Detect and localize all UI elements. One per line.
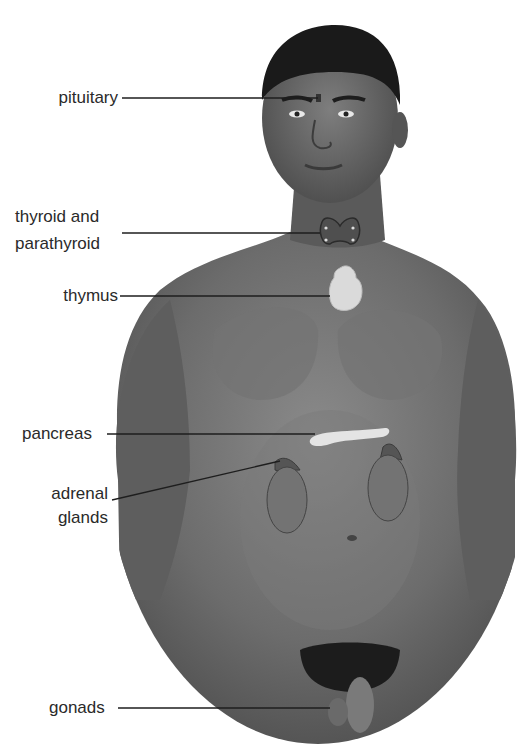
torso [116, 232, 516, 749]
head [262, 25, 408, 203]
gonads-label: gonads [49, 698, 105, 718]
pancreas-label: pancreas [22, 424, 92, 444]
pituitary-label: pituitary [30, 88, 118, 108]
adrenal-label-line2: glands [20, 508, 108, 528]
endocrine-diagram [0, 0, 530, 749]
thyroid-label-line2: parathyroid [15, 234, 100, 254]
thymus-label: thymus [30, 286, 118, 306]
adrenal-label-line1: adrenal [20, 484, 108, 504]
thyroid-label-line1: thyroid and [15, 207, 99, 227]
